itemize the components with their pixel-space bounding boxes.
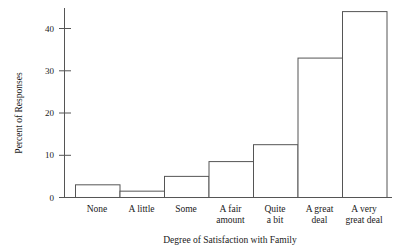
bar-quite-a-bit[interactable] bbox=[254, 145, 299, 198]
cat-label-none-l1: None bbox=[87, 204, 108, 214]
cat-label-quite-a-bit-l2: a bit bbox=[267, 215, 284, 225]
histogram-svg: Percent of Responses 0 10 20 30 40 bbox=[0, 0, 397, 250]
cat-label-a-little-l1: A little bbox=[128, 204, 154, 214]
cat-label-some-l1: Some bbox=[175, 204, 197, 214]
y-tick-label-0: 0 bbox=[50, 193, 55, 203]
bar-some[interactable] bbox=[165, 176, 210, 197]
cat-label-a-fair-amount-l1: A fair bbox=[220, 204, 243, 214]
bar-a-great-deal[interactable] bbox=[298, 58, 343, 197]
y-tick-label-30: 30 bbox=[45, 66, 55, 76]
cat-label-a-very-great-deal-l1: A very bbox=[351, 204, 377, 214]
bar-a-very-great-deal[interactable] bbox=[343, 12, 388, 198]
cat-label-a-great-deal-l2: deal bbox=[312, 215, 328, 225]
x-category-labels: None A little Some A fair amount Quite a… bbox=[87, 204, 383, 225]
chart-container: Percent of Responses 0 10 20 30 40 bbox=[0, 0, 397, 250]
y-tick-label-10: 10 bbox=[45, 150, 55, 160]
bar-a-little[interactable] bbox=[120, 191, 165, 197]
cat-label-a-fair-amount-l2: amount bbox=[216, 215, 245, 225]
bar-a-fair-amount[interactable] bbox=[209, 162, 254, 198]
bar-none[interactable] bbox=[76, 185, 121, 198]
bars-group bbox=[76, 12, 388, 198]
y-tick-label-20: 20 bbox=[45, 108, 55, 118]
cat-label-quite-a-bit-l1: Quite bbox=[264, 204, 285, 214]
x-axis-title: Degree of Satisfaction with Family bbox=[163, 235, 297, 245]
y-tick-label-40: 40 bbox=[45, 24, 55, 34]
y-tick-group: 0 10 20 30 40 bbox=[45, 24, 71, 203]
y-axis-title: Percent of Responses bbox=[14, 72, 24, 154]
cat-label-a-very-great-deal-l2: great deal bbox=[345, 215, 383, 225]
y-axis-title-group: Percent of Responses bbox=[14, 72, 24, 154]
cat-label-a-great-deal-l1: A great bbox=[306, 204, 334, 214]
